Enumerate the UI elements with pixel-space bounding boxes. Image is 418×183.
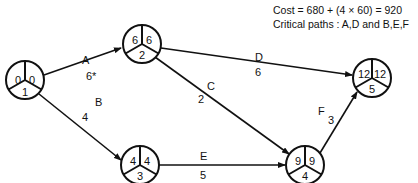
network-diagram: A 6* B 4 C 2 D 6 E 5 F 3 0 0 1 6 6 2 4 4…: [0, 0, 418, 183]
activity-c-duration: 2: [198, 93, 204, 105]
event-node-2: 6 6 2: [123, 25, 161, 63]
node-4-earliest: 9: [295, 155, 301, 167]
activity-b-name: B: [95, 96, 102, 108]
node-3-earliest: 4: [130, 155, 136, 167]
activity-e-duration: 5: [200, 169, 206, 181]
activity-b-duration: 4: [82, 111, 88, 123]
node-2-latest: 6: [146, 34, 152, 46]
node-5-latest: 12: [374, 68, 386, 80]
activity-e-name: E: [200, 150, 207, 162]
node-2-earliest: 6: [132, 34, 138, 46]
activity-f-duration: 3: [328, 114, 334, 126]
event-node-3: 4 4 3: [121, 146, 159, 183]
node-1-earliest: 0: [15, 74, 21, 86]
activity-c-arrow: [155, 57, 289, 154]
activity-f-arrow: [320, 92, 357, 153]
node-5-earliest: 12: [358, 68, 370, 80]
event-node-5: 12 12 5: [353, 59, 391, 97]
node-5-number: 5: [369, 83, 375, 95]
node-1-number: 1: [22, 86, 28, 98]
activity-a-name: A: [82, 54, 90, 66]
event-node-4: 9 9 4: [286, 146, 324, 183]
node-3-latest: 4: [144, 155, 150, 167]
activity-d-name: D: [255, 51, 263, 63]
activity-c-name: C: [207, 80, 215, 92]
activity-f-name: F: [318, 105, 325, 117]
node-3-number: 3: [137, 170, 143, 182]
activity-a-duration: 6*: [86, 70, 97, 82]
node-2-number: 2: [139, 49, 145, 61]
node-1-latest: 0: [29, 74, 35, 86]
node-4-number: 4: [302, 170, 308, 182]
activity-b-arrow: [39, 94, 121, 160]
activity-d-duration: 6: [255, 66, 261, 78]
node-4-latest: 9: [309, 155, 315, 167]
event-node-1: 0 0 1: [6, 61, 44, 99]
